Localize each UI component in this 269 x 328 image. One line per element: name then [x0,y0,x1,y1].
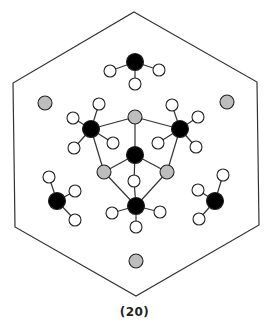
carbon-atom [207,193,224,210]
hydrogen-atom [217,169,229,181]
carbon-atom [128,198,145,215]
hydrogen-atom [93,98,105,110]
gray-atom [220,95,234,109]
hydrogen-atom [130,221,142,233]
hydrogen-atom [104,65,116,77]
hydrogen-atom [190,141,202,153]
hydrogen-atom [153,64,165,76]
hydrogen-atom [68,142,80,154]
hydrogen-atom [43,171,55,183]
gray-atom [129,254,143,268]
hydrogen-atom [166,99,178,111]
hydrogen-atom [154,206,166,218]
hydrogen-atom [129,78,141,90]
carbon-atom [49,193,66,210]
hydrogen-atom [67,112,79,124]
hydrogen-atom [192,184,204,196]
hydrogen-atom [69,185,81,197]
hydrogen-atom [152,137,164,149]
figure-caption: (20) [0,305,269,319]
gray-atom [97,165,111,179]
carbon-atom [127,147,144,164]
hydrogen-atom [193,213,205,225]
hydrogen-atom [69,214,81,226]
gray-atom [160,165,174,179]
molecular-diagram [0,0,269,328]
atoms-layer [38,54,234,269]
hydrogen-atom [128,175,140,187]
hydrogen-atom [107,137,119,149]
hydrogen-atom [192,111,204,123]
gray-atom [128,110,142,124]
hydrogen-atom [106,207,118,219]
carbon-atom [83,121,100,138]
carbon-atom [172,121,189,138]
carbon-atom [127,54,144,71]
gray-atom [38,96,52,110]
